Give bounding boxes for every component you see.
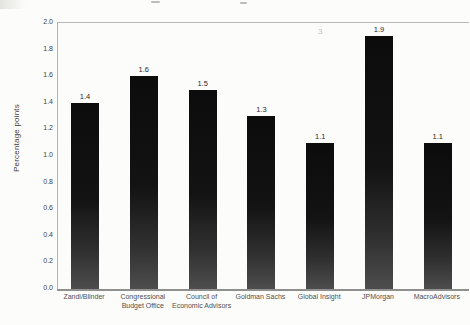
bar: [424, 143, 452, 289]
x-category-label: Global Insight: [288, 292, 350, 301]
y-tick-label: 1.0: [28, 151, 53, 159]
x-category-label: Congressional Budget Office: [112, 292, 174, 310]
y-tick-label: 2.0: [28, 18, 53, 26]
bar-value-label: 1.1: [424, 132, 452, 141]
scan-smudge: [0, 0, 28, 9]
x-category-label: MacroAdvisors: [406, 292, 468, 301]
y-tick-label: 0.4: [28, 231, 53, 239]
bar-value-label: 1.4: [71, 92, 99, 101]
bar-value-label: 1.1: [306, 132, 334, 141]
y-tick-label: 1.4: [28, 98, 53, 106]
bar: [365, 36, 393, 289]
y-tick-label: 0.2: [28, 257, 53, 265]
bar: [130, 76, 158, 289]
y-axis-title: Percentage points: [12, 104, 21, 172]
cropped-title-remnant: [151, 1, 160, 3]
chart-figure: 3 Percentage points 2.01.81.61.41.21.00.…: [0, 0, 470, 325]
x-category-label: Goldman Sachs: [229, 292, 291, 301]
y-tick-label: 0.8: [28, 178, 53, 186]
y-tick-label: 1.6: [28, 71, 53, 79]
bar-value-label: 1.5: [189, 79, 217, 88]
y-tick-label: 1.8: [28, 45, 53, 53]
x-category-label: JPMorgan: [347, 292, 409, 301]
y-tick-label: 1.2: [28, 124, 53, 132]
bar-value-label: 1.9: [365, 25, 393, 34]
x-category-label: Zandi/Blinder: [53, 292, 115, 301]
bar: [306, 143, 334, 289]
bar: [189, 90, 217, 290]
cropped-title-remnant: [240, 2, 247, 4]
y-tick-label: 0.6: [28, 204, 53, 212]
x-category-label: Council of Economic Advisors: [171, 292, 233, 310]
bar-value-label: 1.6: [130, 65, 158, 74]
bar: [247, 116, 275, 289]
plot-area: 1.41.61.51.31.11.91.1: [57, 22, 469, 291]
bar: [71, 103, 99, 289]
bar-value-label: 1.3: [247, 105, 275, 114]
y-tick-label: 0.0: [28, 284, 53, 292]
